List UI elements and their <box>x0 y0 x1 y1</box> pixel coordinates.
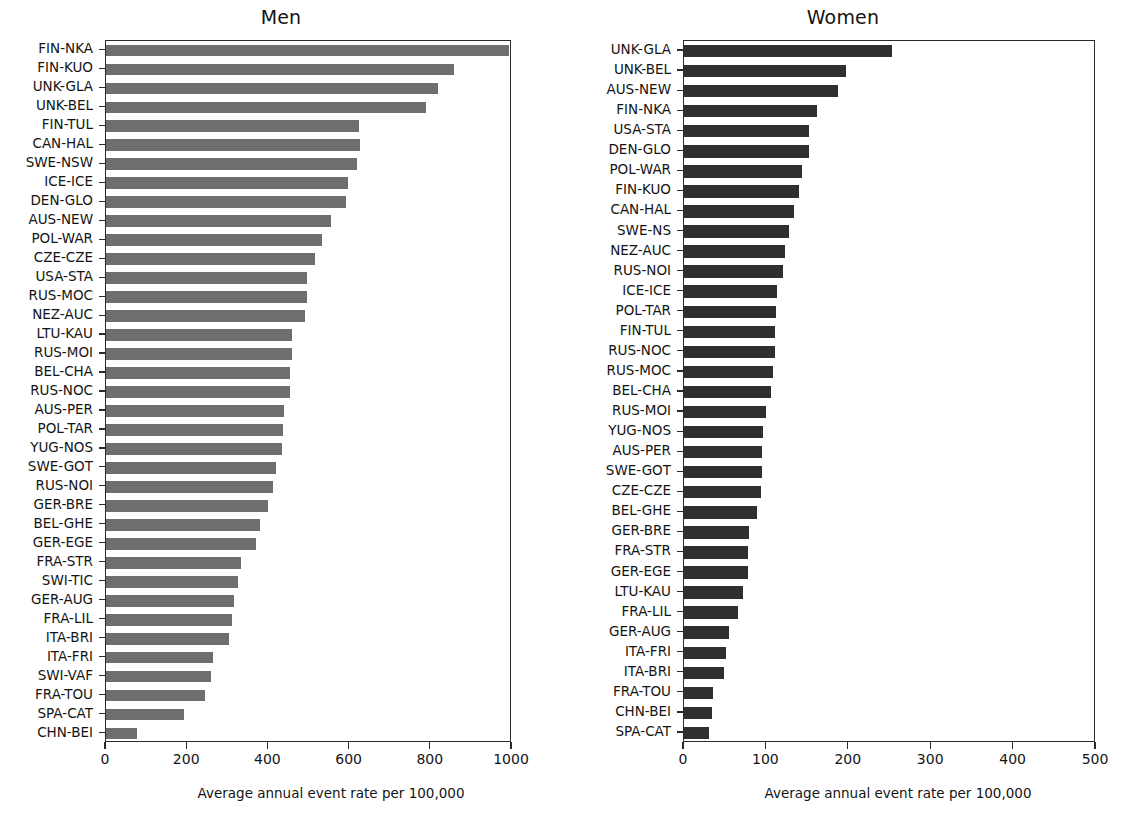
y-axis-tick-label: RUS-MOI <box>34 346 93 360</box>
y-axis-tick-label: LTU-KAU <box>37 327 93 341</box>
bar <box>684 85 838 97</box>
bar <box>684 606 738 618</box>
x-axis-tick <box>682 742 683 749</box>
bar-row <box>106 120 510 132</box>
bar-row <box>106 102 510 114</box>
y-axis-tick-label: AUS-PER <box>34 403 93 417</box>
bar-row <box>684 245 1094 257</box>
bar-row <box>106 83 510 95</box>
bar-row <box>684 105 1094 117</box>
bar <box>106 272 307 284</box>
bar <box>684 667 724 679</box>
y-axis-tick-label: SWE-NSW <box>26 156 93 170</box>
x-axis-tick <box>510 742 511 749</box>
x-axis-title-women: Average annual event rate per 100,000 <box>562 785 1125 801</box>
bar-row <box>684 626 1094 638</box>
y-axis-tick-label: CHN-BEI <box>37 726 93 740</box>
y-axis-tick-label: DEN-GLO <box>608 143 671 157</box>
bar-row <box>684 65 1094 77</box>
x-axis-tick-label: 100 <box>752 751 779 767</box>
bar-row <box>106 45 510 57</box>
x-axis-tick-label: 800 <box>416 751 443 767</box>
x-axis-tick <box>1012 742 1013 749</box>
y-axis-tick-label: FIN-NKA <box>616 103 671 117</box>
y-axis-tick-label: RUS-MOI <box>612 404 671 418</box>
bar-row <box>106 272 510 284</box>
bar <box>106 690 205 702</box>
bar-row <box>106 576 510 588</box>
bar <box>684 647 726 659</box>
x-axis-ticks-women <box>683 742 1095 749</box>
y-axis-tick-label: CHN-BEI <box>615 705 671 719</box>
bar <box>684 626 729 638</box>
bar-row <box>684 225 1094 237</box>
x-axis-tick-labels-men: 02004006008001000 <box>105 751 511 771</box>
bar <box>684 326 775 338</box>
bar-row <box>684 346 1094 358</box>
bar-row <box>106 481 510 493</box>
x-axis-tick <box>930 742 931 749</box>
bar-row <box>106 405 510 417</box>
x-axis-tick <box>429 742 430 749</box>
bar <box>106 633 229 645</box>
bar-row <box>684 526 1094 538</box>
x-axis-tick-label: 300 <box>917 751 944 767</box>
bar-row <box>106 614 510 626</box>
bar-row <box>684 265 1094 277</box>
y-axis-tick-label: SWE-GOT <box>606 464 671 478</box>
bar <box>684 225 789 237</box>
bar <box>106 310 305 322</box>
x-axis-tick-label: 400 <box>999 751 1026 767</box>
x-axis-tick <box>267 742 268 749</box>
y-axis-tick-label: BEL-GHE <box>33 517 93 531</box>
bar-row <box>106 215 510 227</box>
y-axis-tick-label: BEL-CHA <box>612 384 671 398</box>
bar <box>106 652 213 664</box>
bar <box>684 105 817 117</box>
bar <box>106 291 307 303</box>
bar <box>106 405 284 417</box>
bar-row <box>684 406 1094 418</box>
bar <box>106 64 454 76</box>
x-axis-tick-label: 500 <box>1082 751 1109 767</box>
y-axis-tick-label: CZE-CZE <box>612 484 671 498</box>
y-axis-tick-label: FIN-KUO <box>37 61 93 75</box>
bar-row <box>106 728 510 740</box>
y-axis-tick-label: POL-WAR <box>609 163 671 177</box>
bar-row <box>684 466 1094 478</box>
bar <box>106 614 232 626</box>
bar <box>106 538 256 550</box>
bar-row <box>684 546 1094 558</box>
bar <box>106 45 509 57</box>
bar <box>684 707 712 719</box>
y-axis-tick-label: RUS-NOC <box>30 384 93 398</box>
bar <box>106 348 292 360</box>
bar <box>106 139 360 151</box>
bar-row <box>684 205 1094 217</box>
y-axis-tick-label: YUG-NOS <box>608 424 671 438</box>
y-axis-tick-label: SWE-NS <box>617 224 671 238</box>
y-axis-tick-label: GER-EGE <box>33 536 93 550</box>
bar-row <box>106 234 510 246</box>
x-axis-tick-label: 0 <box>679 751 688 767</box>
bar-row <box>684 285 1094 297</box>
y-axis-tick-label: RUS-NOC <box>608 344 671 358</box>
bar <box>106 367 290 379</box>
y-axis-tick-label: GER-AUG <box>31 593 93 607</box>
bar <box>684 285 777 297</box>
y-axis-tick-label: GER-EGE <box>611 565 671 579</box>
y-axis-tick-label: UNK-BEL <box>614 63 671 77</box>
bar-row <box>684 446 1094 458</box>
bar-row <box>106 462 510 474</box>
bar <box>684 446 762 458</box>
bar-row <box>684 606 1094 618</box>
bar <box>684 165 802 177</box>
bar <box>106 83 438 95</box>
y-axis-tick-label: FRA-LIL <box>622 605 671 619</box>
bar <box>106 671 211 683</box>
y-axis-tick-label: UNK-BEL <box>36 99 93 113</box>
bar-row <box>684 586 1094 598</box>
bar <box>684 65 846 77</box>
y-axis-tick-label: SWI-VAF <box>38 669 93 683</box>
y-axis-tick-label: RUS-NOI <box>614 264 671 278</box>
